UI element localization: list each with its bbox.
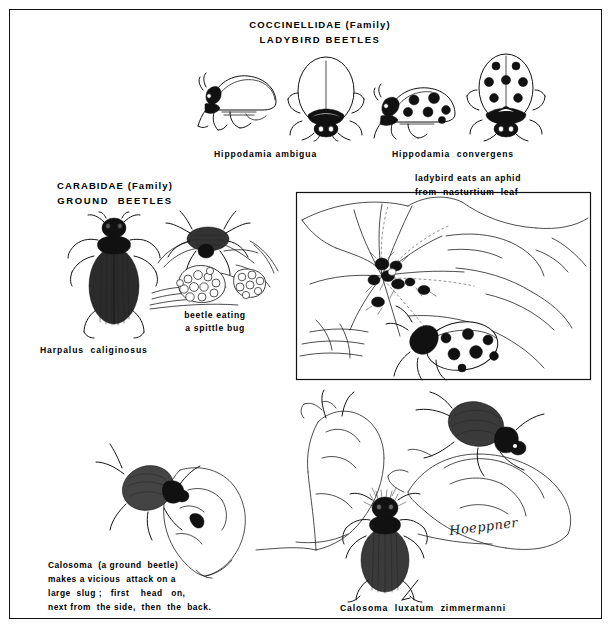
figure-nasturtium-leaf-scene <box>296 192 591 380</box>
aphid-cluster <box>366 252 436 314</box>
caption-aphid-line2: from nasturtium leaf <box>415 186 518 199</box>
label-harpalus: Harpalus caliginosus <box>40 344 148 357</box>
figure-ladybird-dorsal-spotted <box>468 52 544 142</box>
figure-ladybird-lateral-spotted <box>372 78 458 140</box>
spittle-mass <box>177 265 226 302</box>
heading-coccinellidae: COCCINELLIDAE (Family) <box>200 18 440 33</box>
caption-calosoma-line2: makes a vicious attack on a <box>48 572 176 586</box>
heading-carabidae: CARABIDAE (Family) <box>35 179 195 194</box>
caption-calosoma-line3: large slug ; first head on, <box>48 586 185 600</box>
figure-beetle-eating-spittle-bug <box>150 205 285 313</box>
illustration-plate: COCCINELLIDAE (Family) LADYBIRD BEETLES <box>0 0 612 629</box>
heading-ladybird-beetles: LADYBIRD BEETLES <box>200 33 440 48</box>
label-leader-line <box>396 580 436 604</box>
figure-ladybird-lateral-plain <box>196 60 282 136</box>
label-hippodamia-convergens: Hippodamia convergens <box>392 148 514 161</box>
caption-aphid-line1: ladybird eats an aphid <box>415 172 521 185</box>
label-hippodamia-ambigua: Hippodamia ambigua <box>214 148 317 161</box>
beetle-head-on <box>96 444 200 540</box>
caption-spittle-line2: a spittle bug <box>160 322 270 335</box>
caption-calosoma-line4: next from the side, then the back. <box>48 600 211 614</box>
figure-ladybird-dorsal-convergent <box>288 55 364 141</box>
label-calosoma-species: Calosoma luxatum zimmermanni <box>340 602 506 615</box>
caption-spittle-line1: beetle eating <box>160 309 270 322</box>
caption-calosoma-line1: Calosoma (a ground beetle) <box>48 558 178 572</box>
